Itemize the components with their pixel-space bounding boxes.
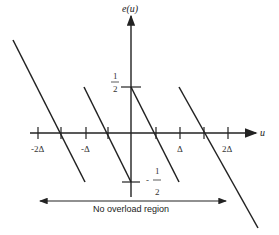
quantization-error-diagram: e(u) u -2Δ -Δ Δ 2Δ 1 2 - 1 2 No overload… bbox=[0, 0, 279, 235]
x-axis-label: u bbox=[260, 127, 265, 138]
svg-text:1: 1 bbox=[113, 71, 118, 81]
no-overload-region-label: No overload region bbox=[93, 204, 169, 214]
svg-text:1: 1 bbox=[155, 166, 160, 176]
sawtooth-error-curve bbox=[13, 40, 258, 228]
svg-text:2: 2 bbox=[113, 84, 118, 94]
x-tick-label-2delta: 2Δ bbox=[222, 144, 233, 154]
x-tick-label-neg-2delta: -2Δ bbox=[31, 144, 44, 154]
svg-text:2: 2 bbox=[155, 187, 160, 197]
svg-text:-: - bbox=[146, 175, 149, 185]
y-tick-label-half: 1 2 bbox=[111, 71, 119, 94]
y-tick-label-neg-half: - 1 2 bbox=[146, 166, 161, 197]
x-tick-label-neg-delta: -Δ bbox=[81, 144, 90, 154]
x-tick-label-delta: Δ bbox=[177, 144, 183, 154]
y-axis-label: e(u) bbox=[122, 3, 139, 15]
